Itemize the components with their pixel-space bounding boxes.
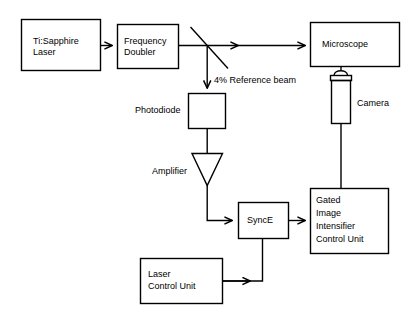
block-amplifier-triangle xyxy=(192,154,223,186)
camera-dome xyxy=(334,71,348,76)
diagram-canvas: Ti:Sapphire Laser Frequency Doubler Micr… xyxy=(0,0,415,318)
label-frequency-doubler-line1: Frequency xyxy=(124,36,167,47)
label-sync-e: SyncE xyxy=(247,215,273,226)
label-amplifier: Amplifier xyxy=(152,166,187,177)
label-giicu-line1: Gated xyxy=(316,195,341,206)
label-giicu-line2: Image xyxy=(316,208,341,219)
camera-collar xyxy=(331,76,352,81)
link-laser-control-unit-to-sync-e xyxy=(223,239,263,282)
label-microscope: Microscope xyxy=(322,39,368,50)
label-ti-sapphire-laser-line2: Laser xyxy=(33,47,56,58)
beamsplitter-line xyxy=(191,27,229,69)
camera-body xyxy=(332,81,351,124)
label-laser-control-unit-line1: Laser xyxy=(148,269,171,280)
label-photodiode: Photodiode xyxy=(135,105,181,116)
label-frequency-doubler-line2: Doubler xyxy=(124,47,156,58)
block-photodiode xyxy=(189,94,226,129)
label-laser-control-unit-line2: Control Unit xyxy=(148,281,196,292)
label-giicu-line3: Intensifier xyxy=(316,221,355,232)
link-amplifier-to-sync-e xyxy=(207,186,232,221)
label-reference-beam: 4% Reference beam xyxy=(214,75,296,86)
label-giicu-line4: Control Unit xyxy=(316,234,364,245)
label-ti-sapphire-laser-line1: Ti:Sapphire xyxy=(33,36,79,47)
label-camera: Camera xyxy=(357,98,389,109)
